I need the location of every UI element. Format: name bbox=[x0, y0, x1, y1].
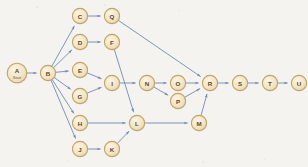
edge-n-to-p bbox=[154, 87, 168, 95]
node-u[interactable]: U bbox=[291, 75, 307, 91]
node-label-d: D bbox=[78, 39, 83, 46]
node-label-g: G bbox=[78, 93, 83, 100]
node-p[interactable]: P bbox=[170, 93, 186, 109]
edge-b-to-d bbox=[54, 50, 72, 67]
node-label-k: K bbox=[110, 146, 115, 153]
node-r[interactable]: R bbox=[202, 75, 218, 91]
node-l[interactable]: L bbox=[129, 115, 145, 131]
node-h[interactable]: H bbox=[72, 115, 88, 131]
node-label-o: O bbox=[176, 80, 181, 87]
node-m[interactable]: M bbox=[191, 115, 207, 131]
edge-p-to-r bbox=[185, 89, 200, 97]
node-k[interactable]: K bbox=[104, 141, 120, 157]
node-o[interactable]: O bbox=[170, 75, 186, 91]
node-j[interactable]: J bbox=[72, 141, 88, 157]
node-label-a: A bbox=[15, 67, 20, 74]
node-s[interactable]: S bbox=[232, 75, 248, 91]
node-label-b: B bbox=[46, 70, 51, 77]
node-label-l: L bbox=[135, 120, 139, 127]
node-n[interactable]: N bbox=[139, 75, 155, 91]
node-label-n: N bbox=[145, 80, 150, 87]
node-label-u: U bbox=[297, 80, 302, 87]
node-label-t: T bbox=[268, 80, 272, 87]
edge-m-to-r bbox=[201, 94, 207, 115]
node-label-c: C bbox=[78, 13, 83, 20]
node-label-p: P bbox=[176, 98, 180, 105]
node-label-s: S bbox=[238, 80, 242, 87]
node-t[interactable]: T bbox=[262, 75, 278, 91]
node-a[interactable]: AStart bbox=[7, 63, 27, 83]
node-b[interactable]: B bbox=[40, 65, 56, 81]
node-q[interactable]: Q bbox=[104, 8, 120, 24]
flow-graph-canvas: AStartBCQDFEGIHJKLNOPMRSTU bbox=[0, 0, 308, 167]
node-label-j: J bbox=[78, 146, 82, 153]
node-d[interactable]: D bbox=[72, 34, 88, 50]
node-i[interactable]: I bbox=[104, 75, 120, 91]
edge-b-to-e bbox=[56, 71, 68, 72]
node-label-r: R bbox=[208, 80, 213, 87]
node-g[interactable]: G bbox=[72, 88, 88, 104]
node-c[interactable]: C bbox=[72, 8, 88, 24]
edge-k-to-l bbox=[118, 131, 129, 143]
node-e[interactable]: E bbox=[72, 62, 88, 78]
edge-layer bbox=[27, 16, 287, 149]
edge-g-to-i bbox=[88, 87, 102, 93]
node-label-h: H bbox=[78, 120, 83, 127]
node-label-m: M bbox=[196, 120, 201, 127]
node-label-f: F bbox=[110, 39, 114, 46]
node-sublabel-a: Start bbox=[13, 75, 22, 80]
edge-b-to-c bbox=[52, 26, 74, 66]
node-label-i: I bbox=[111, 80, 113, 87]
edge-e-to-i bbox=[88, 73, 102, 79]
edge-q-to-r bbox=[119, 21, 201, 77]
node-label-q: Q bbox=[110, 13, 115, 20]
node-f[interactable]: F bbox=[104, 34, 120, 50]
node-label-e: E bbox=[78, 67, 82, 74]
